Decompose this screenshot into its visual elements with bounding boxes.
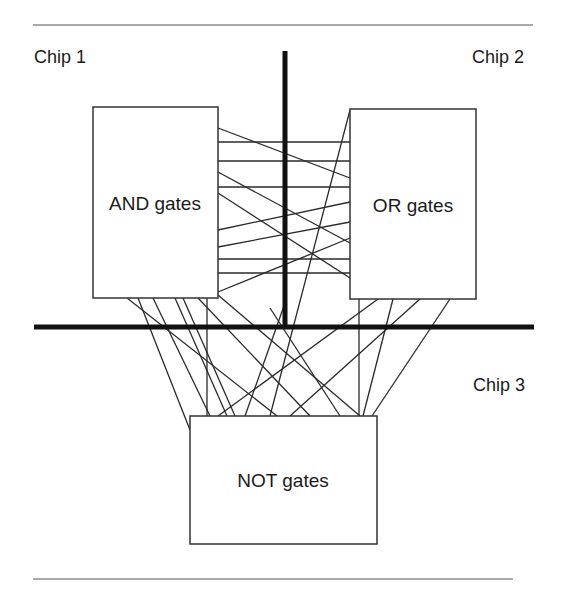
wire (183, 298, 235, 416)
wire (138, 298, 190, 430)
wire (363, 299, 393, 416)
wire (245, 303, 285, 416)
and-gates-label: AND gates (109, 193, 201, 215)
or-gates-label: OR gates (373, 195, 453, 217)
chip-2-label: Chip 2 (472, 47, 524, 68)
chip-3-label: Chip 3 (473, 375, 525, 396)
chip-1-label: Chip 1 (34, 47, 86, 68)
not-gates-label: NOT gates (237, 470, 329, 492)
wire (270, 308, 340, 416)
wire (372, 299, 450, 416)
diagram-canvas (0, 0, 565, 591)
wire (218, 299, 378, 416)
wire (218, 295, 360, 416)
